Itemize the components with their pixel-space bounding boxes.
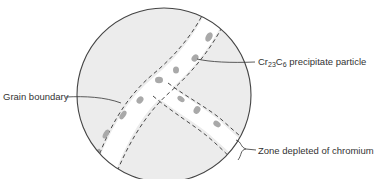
depleted-zone-text: Zone depleted of chromium [258,145,374,156]
grain-boundary-text: Grain boundary [3,91,68,102]
zone-brace [236,140,256,160]
precipitate-cr: Cr [258,56,268,67]
precipitate-label: Cr23C6 precipitate particle [258,57,366,67]
precipitate-text: precipitate particle [287,56,367,67]
depleted-zone-label: Zone depleted of chromium [258,146,374,156]
precipitate-sub-23: 23 [268,61,276,68]
grain-boundary-label: Grain boundary [3,92,68,102]
precipitate-c: C [276,56,283,67]
